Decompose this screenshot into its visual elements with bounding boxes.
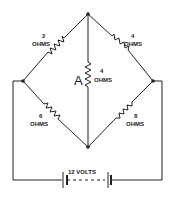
r5-unit: OHMS <box>126 121 144 127</box>
r2-unit: OHMS <box>124 41 142 47</box>
circuit-svg: 2 OHMS 4 OHMS A 4 OHMS 6 OHMS 8 OHMS 12 … <box>0 0 171 211</box>
resistor-top-right <box>88 14 153 81</box>
resistor-top-left <box>23 14 88 81</box>
battery-label: 12 VOLTS <box>68 169 96 175</box>
r3-value: 4 <box>100 68 104 74</box>
resistor-bottom-right <box>88 81 153 147</box>
circuit-diagram: 2 OHMS 4 OHMS A 4 OHMS 6 OHMS 8 OHMS 12 … <box>0 0 171 211</box>
resistor-center <box>85 14 91 147</box>
r1-unit: OHMS <box>32 41 50 47</box>
r4-unit: OHMS <box>30 121 48 127</box>
r1-value: 2 <box>42 33 46 39</box>
r3-unit: OHMS <box>94 77 112 83</box>
resistor-bottom-left <box>23 81 88 147</box>
r4-value: 6 <box>39 113 43 119</box>
r3-tag: A <box>74 73 83 88</box>
r2-value: 4 <box>131 33 135 39</box>
r5-value: 8 <box>134 113 138 119</box>
